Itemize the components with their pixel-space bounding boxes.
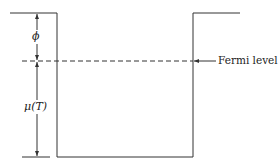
phi-arrow-up-icon (35, 14, 39, 19)
mu-arrow-up-icon (35, 62, 39, 67)
phi-arrow-down-icon (35, 55, 39, 60)
mu-label: μ(T) (24, 100, 47, 113)
well-outline (10, 13, 240, 157)
mu-arrow-down-icon (35, 151, 39, 156)
fermi-arrow-icon (194, 59, 199, 63)
arrowheads (35, 14, 199, 156)
fermi-level-label: Fermi level (218, 54, 278, 66)
phi-label: ϕ (32, 30, 40, 43)
potential-well-diagram (0, 0, 280, 160)
